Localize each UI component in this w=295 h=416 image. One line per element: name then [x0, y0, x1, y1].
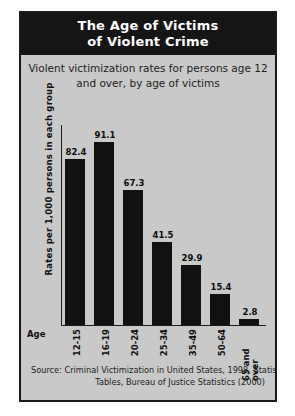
- x-axis-tick-label: 25-34: [159, 329, 168, 356]
- chart-source-line-2: Tables, Bureau of Justice Statistics (20…: [31, 376, 265, 388]
- bar: [181, 265, 201, 325]
- bar-value-label: 67.3: [115, 178, 153, 188]
- bar-value-label: 41.5: [144, 230, 182, 240]
- bar: [239, 319, 259, 325]
- x-axis-tick-label: 50-64: [217, 329, 226, 356]
- bar-slot: 2.8: [236, 105, 265, 325]
- chart-title-line-1: The Age of Victims: [78, 18, 219, 34]
- y-axis-label: Rates per 1,000 persons in each group: [44, 101, 54, 276]
- chart-subtitle-line-1: Violent victimization rates for persons …: [21, 61, 275, 76]
- bar-value-label: 29.9: [173, 253, 211, 263]
- bar: [152, 242, 172, 325]
- x-axis-tick-label: 20-24: [130, 329, 139, 356]
- chart-plot-area: Rates per 1,000 persons in each group 82…: [21, 105, 275, 353]
- chart-source-note: Source: Criminal Victimization in United…: [31, 364, 265, 388]
- bar-value-label: 82.4: [57, 147, 95, 157]
- chart-title-line-2: of Violent Crime: [87, 34, 209, 50]
- bar-slot: 15.4: [207, 105, 236, 325]
- bar: [123, 190, 143, 325]
- chart-figure: The Age of Victims of Violent Crime Viol…: [19, 11, 277, 402]
- bar-slot: 67.3: [120, 105, 149, 325]
- x-axis-tick-label: 16-19: [101, 329, 110, 356]
- bar-slot: 41.5: [149, 105, 178, 325]
- bar-slot: 91.1: [91, 105, 120, 325]
- bar-value-label: 15.4: [202, 282, 240, 292]
- chart-source-line-1: Source: Criminal Victimization in United…: [31, 364, 265, 376]
- x-axis-line: [61, 325, 266, 326]
- bar: [210, 294, 230, 325]
- bar-value-label: 91.1: [86, 130, 124, 140]
- bar: [65, 159, 85, 325]
- chart-subtitle-line-2: and over, by age of victims: [21, 76, 275, 91]
- x-axis-tick-label: 12-15: [72, 329, 81, 356]
- bar: [94, 142, 114, 325]
- chart-title-bar: The Age of Victims of Violent Crime: [21, 13, 275, 55]
- bar-value-label: 2.8: [231, 307, 269, 317]
- x-axis-tick-label: 35-49: [188, 329, 197, 356]
- x-axis-group-label: Age: [27, 329, 45, 339]
- chart-subtitle: Violent victimization rates for persons …: [21, 61, 275, 91]
- bar-series: 82.491.167.341.529.915.42.8: [62, 105, 266, 325]
